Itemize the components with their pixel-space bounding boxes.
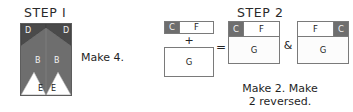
step2-heading: STEP 2: [237, 5, 284, 20]
equals-operator: =: [215, 41, 227, 53]
step2-caption-line2: 2 reversed.: [220, 95, 340, 108]
piece-label-b-left: B: [35, 57, 41, 65]
plus-operator: +: [164, 35, 214, 46]
step2-result-a: C F G: [228, 21, 280, 64]
result-a-cell-g: G: [228, 36, 280, 64]
result-b-cell-g: G: [297, 36, 349, 64]
step2-result-b: F C G: [297, 21, 349, 64]
step2-source-strip: C F: [164, 21, 214, 34]
result-b-cell-c: C: [333, 22, 348, 36]
piece-label-d-left: D: [25, 27, 31, 35]
result-a-top-row: C F: [228, 21, 280, 36]
piece-label-e-left: E: [38, 85, 43, 93]
result-a-cell-c: C: [229, 22, 244, 36]
piece-label-e-right: E: [51, 85, 56, 93]
piece-label-b-right: B: [54, 57, 60, 65]
result-b-top-row: F C: [297, 21, 349, 36]
step1-caption: Make 4.: [81, 51, 124, 64]
source-cell-c: C: [165, 22, 180, 33]
result-b-cell-f: F: [298, 22, 333, 36]
step2-caption-line1: Make 2. Make: [220, 82, 340, 95]
step1-heading: STEP I: [24, 5, 66, 20]
piece-label-d-right: D: [63, 27, 69, 35]
ampersand-operator: &: [281, 40, 295, 51]
source-cell-f: F: [180, 22, 213, 33]
result-a-cell-f: F: [244, 22, 279, 36]
step2-source-square-g: G: [164, 47, 214, 77]
step1-unit-diagram: D D B B E E: [20, 23, 72, 96]
